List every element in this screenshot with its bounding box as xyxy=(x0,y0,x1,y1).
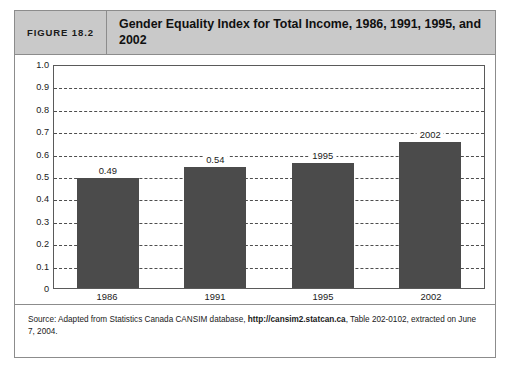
y-axis-tick: 0.6 xyxy=(36,150,49,160)
y-axis-tick: 0.9 xyxy=(36,82,49,92)
bar-slot: 0.49 xyxy=(54,66,162,288)
source-prefix-text: Source: Adapted from Statistics Canada C… xyxy=(28,315,248,324)
bar-slot: 1995 xyxy=(269,66,377,288)
x-axis-category: 2002 xyxy=(377,291,485,302)
x-axis-category: 1991 xyxy=(161,291,269,302)
bar xyxy=(292,163,354,288)
figure-title: Gender Equality Index for Total Income, … xyxy=(107,11,495,54)
bar-slot: 0.54 xyxy=(162,66,270,288)
source-url-text: http://cansim2.statcan.ca xyxy=(248,315,346,324)
y-axis-tick: 0.2 xyxy=(36,239,49,249)
bar xyxy=(399,142,461,288)
y-axis-tick: 0.1 xyxy=(36,262,49,272)
figure-number: FIGURE 18.2 xyxy=(15,11,107,54)
bar-value-label: 2002 xyxy=(417,129,444,140)
y-axis-tick: 0.3 xyxy=(36,217,49,227)
y-axis-tick: 0.7 xyxy=(36,127,49,137)
x-axis-category: 1986 xyxy=(53,291,161,302)
y-axis-tick: 1.0 xyxy=(36,60,49,70)
bar-value-label: 0.49 xyxy=(96,165,120,176)
y-axis-tick: 0 xyxy=(44,284,49,294)
figure-card: FIGURE 18.2 Gender Equality Index for To… xyxy=(14,10,496,358)
chart-body: 1.00.90.80.70.60.50.40.30.20.10 0.490.54… xyxy=(15,55,495,304)
plot-wrapper: 1.00.90.80.70.60.50.40.30.20.10 0.490.54… xyxy=(15,55,495,304)
bars-layer: 0.490.5419952002 xyxy=(54,66,484,288)
bar xyxy=(184,167,246,288)
y-axis-tick-labels: 1.00.90.80.70.60.50.40.30.20.10 xyxy=(21,65,49,289)
figure-source: Source: Adapted from Statistics Canada C… xyxy=(15,304,495,357)
bar-value-label: 1995 xyxy=(309,150,336,161)
bar-slot: 2002 xyxy=(377,66,485,288)
x-axis-category-labels: 1986199119952002 xyxy=(53,291,485,302)
plot-area: 0.490.5419952002 xyxy=(53,65,485,289)
x-axis-category: 1995 xyxy=(269,291,377,302)
y-axis-tick: 0.4 xyxy=(36,194,49,204)
y-axis-tick: 0.5 xyxy=(36,172,49,182)
bar-value-label: 0.54 xyxy=(203,154,227,165)
bar xyxy=(77,178,139,288)
y-axis-tick: 0.8 xyxy=(36,105,49,115)
figure-header: FIGURE 18.2 Gender Equality Index for To… xyxy=(15,11,495,55)
